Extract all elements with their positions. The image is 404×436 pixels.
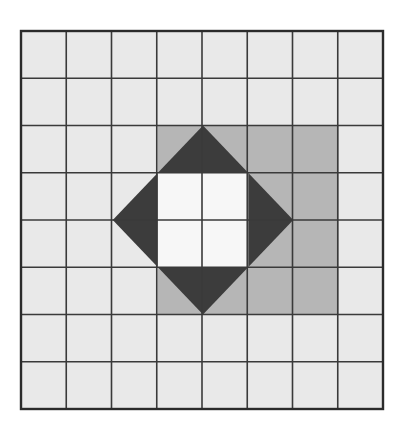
grid-cell [66,126,111,173]
grid-cell [293,315,338,362]
grid-cell [202,362,247,409]
grid-cell [247,362,292,409]
grid-cell [112,78,157,125]
grid-cell [338,220,383,267]
grid-cell [66,31,111,78]
grid-cell [66,173,111,220]
grid-cell [66,267,111,314]
grid-cell [293,362,338,409]
grid-cell [157,362,202,409]
grid-cell [338,267,383,314]
grid-cell [66,315,111,362]
grid-cell [247,31,292,78]
grid-cell [202,78,247,125]
grid-cell [157,315,202,362]
grid-cell [21,267,66,314]
grid-cell [112,315,157,362]
grid-cell [202,315,247,362]
grid-cell [21,78,66,125]
grid-cell [157,78,202,125]
grid-cell [293,31,338,78]
grid-cell [338,362,383,409]
grid-cell [112,31,157,78]
grid-cell [21,126,66,173]
grid-cell [112,362,157,409]
grid-cell [338,126,383,173]
grid-cell [338,31,383,78]
grid-cell [66,220,111,267]
grid-cell [338,173,383,220]
grid-cell [66,362,111,409]
grid-cell [112,126,157,173]
grid-cell [21,31,66,78]
grid-cell [338,78,383,125]
grid-cell [247,315,292,362]
grid-pattern-figure [0,0,404,436]
grid-cell [293,78,338,125]
grid-cell [338,315,383,362]
grid-cell [112,267,157,314]
grid-cell [247,78,292,125]
figure-stage: An 8 by 8 square grid. A medium gray squ… [0,0,404,436]
grid-cell [21,220,66,267]
grid-cell [66,78,111,125]
grid-cell [202,31,247,78]
grid-cell [21,173,66,220]
grid-cell [157,31,202,78]
grid-cell [21,362,66,409]
grid-cell [21,315,66,362]
